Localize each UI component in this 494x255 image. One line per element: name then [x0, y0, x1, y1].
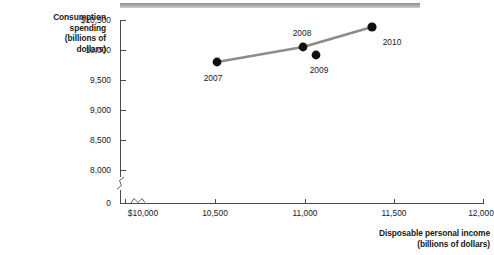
data-point-label-2010: 2010 [383, 37, 402, 47]
y-tick-label-9500: 9,500 [90, 75, 111, 85]
x-tick-label-10000: $10,000 [128, 208, 159, 218]
x-axis-break-mark [131, 199, 145, 204]
chart-figure: Consumption spending (billions of dollar… [0, 0, 494, 255]
data-point-labels: 2007 2008 2009 2010 [204, 28, 402, 83]
x-axis-ticks [126, 199, 484, 204]
data-point-2010[interactable] [367, 22, 376, 31]
y-axis-ticks [121, 21, 126, 171]
x-tick-label-11000: 11,000 [293, 208, 318, 218]
y-tick-label-8500: 8,500 [90, 135, 111, 145]
x-axis-tick-labels: $10,000 10,500 11,000 11,500 12,000 [128, 208, 494, 218]
x-tick-label-11500: 11,500 [382, 208, 407, 218]
data-point-label-2009: 2009 [310, 65, 329, 75]
scatter-plot-canvas: $10,500 10,000 9,500 9,000 8,500 8,000 0 [0, 0, 494, 255]
y-tick-label-10000: 10,000 [85, 45, 111, 55]
x-tick-label-12000: 12,000 [468, 208, 494, 218]
data-point-2008[interactable] [299, 43, 308, 52]
y-tick-label-9000: 9,000 [90, 105, 111, 115]
y-axis-break-mark [117, 177, 124, 189]
y-axis-tick-labels: $10,500 10,000 9,500 9,000 8,500 8,000 0 [81, 15, 112, 208]
data-point-label-2008: 2008 [293, 28, 312, 38]
data-point-2007[interactable] [213, 58, 222, 67]
x-tick-label-10500: 10,500 [202, 208, 228, 218]
y-tick-label-10500: $10,500 [81, 15, 112, 25]
y-tick-label-8000: 8,000 [90, 165, 111, 175]
data-point-label-2007: 2007 [204, 73, 223, 83]
y-tick-label-origin: 0 [106, 198, 111, 208]
data-point-2009[interactable] [312, 51, 321, 60]
